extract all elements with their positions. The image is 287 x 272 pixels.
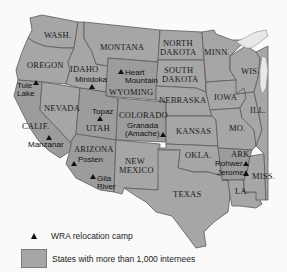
camp-label-jerome: Jerome [217,168,244,177]
camp-label-topaz: Topaz [92,107,113,116]
label-montana: MONTANA [100,42,145,52]
states-swatch-icon [21,249,47,268]
camp-label-amache: (Amache) [125,129,160,138]
label-utah: UTAH [86,123,110,133]
camp-label-manzanar: Manzanar [28,140,64,149]
label-miss: MISS. [252,171,275,181]
legend-states-row: States with more than 1,000 internees [0,249,195,268]
label-calif: CALIF. [22,121,49,131]
label-oregon: OREGON [27,60,64,70]
legend-states-label: States with more than 1,000 internees [52,254,195,264]
label-okla: OKLA. [185,150,212,160]
label-north-dakota: DAKOTA [160,47,197,57]
legend-camp-label: WRA relocation camp [51,231,133,241]
camp-label-lake: Lake [17,89,35,98]
camp-label-posten: Posten [78,155,103,164]
label-wyoming: WYOMING [109,87,153,97]
label-minn: MINN. [204,47,230,57]
label-wash: WASH. [44,30,71,40]
label-iowa: IOWA [214,92,238,102]
label-nevada: NEVADA [44,103,81,113]
label-mexico: MEXICO [119,165,154,175]
legend-camp-row: WRA relocation camp [0,231,133,241]
label-kansas: KANSAS [176,126,211,136]
label-arizona: ARIZONA [74,144,114,154]
map-legend: WRA relocation camp States with more tha… [0,228,287,272]
label-ill: ILL. [250,105,266,115]
camp-label-rohwer: Rohwer [215,159,243,168]
label-mo: MO. [229,123,245,133]
label-texas: TEXAS [173,189,201,199]
label-south-dakota: DAKOTA [162,74,199,84]
label-la: LA. [235,186,249,196]
camp-label-minidoka: Minidoka [75,75,108,84]
camp-triangle-icon [31,233,37,239]
label-ark: ARK. [231,149,252,159]
label-colorado: COLORADO [119,110,168,120]
label-nebraska: NEBRASKA [159,95,207,105]
camp-label-river: River [97,182,116,191]
label-idaho: IDAHO [70,64,98,74]
camp-label-mountain: Mountain [125,76,158,85]
label-wis: WIS. [241,66,260,76]
